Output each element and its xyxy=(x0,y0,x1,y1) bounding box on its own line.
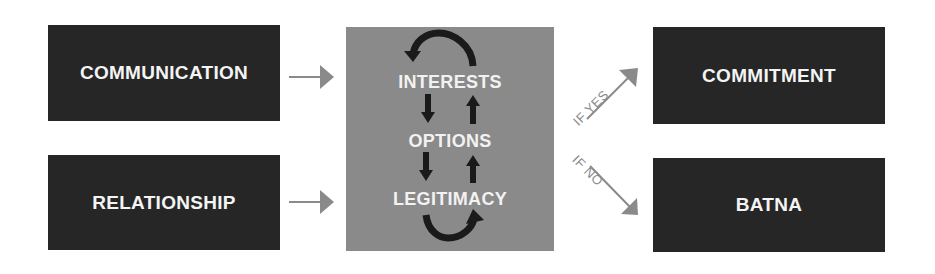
connectors xyxy=(0,0,935,274)
arrow-communication-to-process xyxy=(289,65,334,89)
arrow-relationship-to-process xyxy=(289,190,334,214)
cycle-arrows xyxy=(404,33,484,238)
